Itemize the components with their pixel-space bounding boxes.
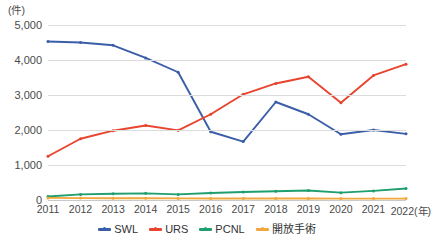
plot-area (48, 25, 406, 200)
data-point (405, 187, 408, 190)
data-point (79, 137, 82, 140)
gridline (48, 25, 406, 26)
data-point (339, 101, 342, 104)
series-line-PCNL (48, 188, 406, 196)
y-axis-tick-label: 3,000 (0, 89, 42, 101)
series-line-SWL (48, 41, 406, 141)
legend-label: URS (165, 224, 188, 235)
data-point (339, 133, 342, 136)
legend-item-PCNL[interactable]: PCNL (199, 224, 244, 235)
x-axis-tick-label: 2020 (329, 203, 352, 215)
x-axis-tick-label: 2018 (264, 203, 287, 215)
legend-label: SWL (114, 224, 138, 235)
y-axis-tick-label: 4,000 (0, 54, 42, 66)
data-point (274, 190, 277, 193)
x-axis-tick-label: 2022(年) (391, 203, 431, 218)
data-point (177, 193, 180, 196)
y-axis-unit-label: (件) (8, 2, 25, 17)
x-axis-tick-label: 2016 (199, 203, 222, 215)
legend-item-開放手術[interactable]: 開放手術 (256, 224, 316, 235)
data-point (405, 63, 408, 66)
y-axis-tick-label: 1,000 (0, 159, 42, 171)
gridline (48, 130, 406, 131)
y-axis-tick-label: 0 (0, 194, 42, 206)
data-point (372, 74, 375, 77)
x-axis-tick-label: 2019 (297, 203, 320, 215)
data-point (405, 132, 408, 135)
data-point (307, 75, 310, 78)
gridline (48, 165, 406, 166)
data-point (274, 82, 277, 85)
data-point (209, 192, 212, 195)
data-point (47, 155, 50, 158)
data-point (47, 196, 50, 199)
x-axis-tick-label: 2015 (166, 203, 189, 215)
x-axis-tick-label: 2014 (134, 203, 157, 215)
x-axis-tick-label: 2012 (69, 203, 92, 215)
data-point (112, 44, 115, 47)
data-point (79, 41, 82, 44)
data-point (112, 192, 115, 195)
data-point (307, 189, 310, 192)
gridline (48, 95, 406, 96)
data-point (339, 191, 342, 194)
data-point (372, 189, 375, 192)
series-layer (48, 25, 406, 200)
y-axis-tick-label: 5,000 (0, 19, 42, 31)
legend-label: PCNL (215, 224, 244, 235)
data-point (209, 113, 212, 116)
legend-swatch-icon (256, 228, 269, 230)
data-point (79, 193, 82, 196)
series-line-開放手術 (48, 198, 406, 199)
x-axis-tick-label: 2013 (101, 203, 124, 215)
x-axis-tick-label: 2021 (362, 203, 385, 215)
legend-swatch-icon (98, 228, 111, 230)
x-axis-tick-label: 2017 (232, 203, 255, 215)
data-point (144, 124, 147, 127)
series-line-URS (48, 64, 406, 156)
gridline (48, 200, 406, 201)
legend-swatch-icon (149, 228, 162, 230)
data-point (144, 192, 147, 195)
data-point (274, 101, 277, 104)
legend-swatch-icon (199, 228, 212, 230)
data-point (47, 40, 50, 43)
x-axis-tick-label: 2011 (37, 203, 60, 215)
legend-item-URS[interactable]: URS (149, 224, 188, 235)
legend-label: 開放手術 (272, 224, 316, 235)
legend-item-SWL[interactable]: SWL (98, 224, 138, 235)
data-point (242, 190, 245, 193)
chart-legend: SWLURSPCNL開放手術 (0, 224, 414, 235)
data-point (307, 113, 310, 116)
data-point (242, 140, 245, 143)
data-point (144, 56, 147, 59)
y-axis-tick-label: 2,000 (0, 124, 42, 136)
gridline (48, 60, 406, 61)
data-point (177, 71, 180, 74)
